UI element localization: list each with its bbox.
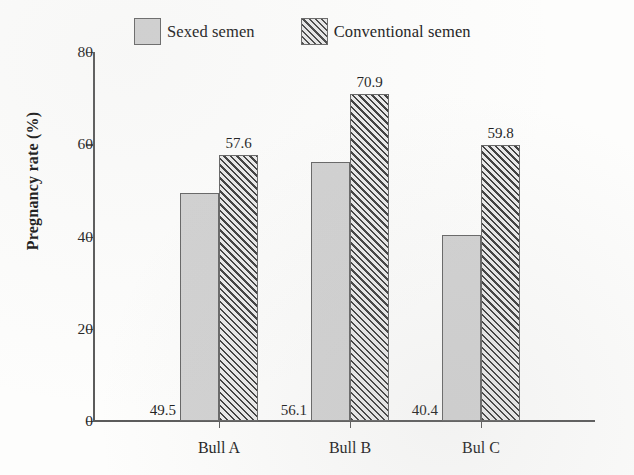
legend-item-sexed-semen: Sexed semen (134, 18, 255, 45)
bar-value-label: 57.6 (225, 135, 251, 152)
bar-value-label: 56.1 (281, 402, 307, 419)
y-axis-title: Pregnancy rate (%) (24, 86, 42, 276)
x-tick-mark (481, 421, 482, 428)
bar[interactable]: 57.6 (219, 155, 258, 421)
y-tick-label: 60 (78, 135, 94, 153)
bar-chart-figure: Sexed semen Conventional semen Pregnancy… (0, 0, 634, 475)
legend-label-conventional-semen: Conventional semen (334, 22, 471, 42)
legend-label-sexed-semen: Sexed semen (167, 22, 255, 42)
legend-item-conventional-semen: Conventional semen (301, 18, 471, 45)
y-tick-label: 0 (85, 412, 93, 430)
plot-area: 020406080 49.557.6Bull A56.170.9Bull B40… (93, 52, 595, 421)
x-axis-category-label: Bull B (329, 439, 371, 457)
chart-legend: Sexed semen Conventional semen (134, 18, 471, 45)
x-axis-category-label: Bull A (198, 439, 240, 457)
bar[interactable]: 56.1 (311, 162, 350, 421)
bar[interactable]: 49.5 (180, 193, 219, 421)
bar-value-label: 70.9 (356, 74, 382, 91)
x-tick-mark (350, 421, 351, 428)
bar[interactable]: 70.9 (350, 94, 389, 421)
y-tick-label: 20 (78, 320, 94, 338)
bar-group: 56.170.9Bull B (311, 52, 389, 421)
bar-value-label: 40.4 (412, 402, 438, 419)
bar[interactable]: 59.8 (481, 145, 520, 421)
y-tick-label: 80 (78, 43, 94, 61)
legend-swatch-hatch-icon (301, 18, 328, 45)
x-axis-category-label: Bul C (462, 439, 500, 457)
bar-group: 40.459.8Bul C (442, 52, 520, 421)
bar-value-label: 59.8 (487, 125, 513, 142)
bar-group: 49.557.6Bull A (180, 52, 258, 421)
bar-value-label: 49.5 (150, 402, 176, 419)
y-tick-label: 40 (78, 228, 94, 246)
x-tick-mark (219, 421, 220, 428)
bar[interactable]: 40.4 (442, 235, 481, 421)
legend-swatch-solid-icon (134, 18, 161, 45)
